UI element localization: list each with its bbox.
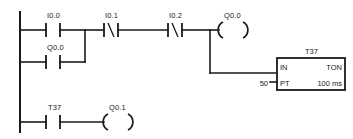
label-contact-i01: I0.1: [105, 11, 118, 20]
label-coil-q00: Q0.0: [224, 11, 241, 20]
contact-i00[interactable]: [46, 23, 60, 37]
coil-q01[interactable]: [103, 114, 133, 130]
label-timer-in: IN: [280, 63, 288, 72]
label-coil-q01: Q0.1: [109, 103, 126, 112]
label-timer-preset-value: 50: [260, 79, 268, 88]
label-timer-name: T37: [305, 47, 318, 56]
contact-t37[interactable]: [46, 115, 60, 129]
label-timer-timebase: 100 ms: [317, 79, 342, 88]
label-contact-t37: T37: [48, 103, 61, 112]
contact-q00-sealin[interactable]: [46, 55, 60, 69]
contact-i01[interactable]: [104, 23, 118, 37]
label-contact-i00: I0.0: [47, 11, 60, 20]
coil-q00[interactable]: [218, 22, 248, 38]
contact-i02[interactable]: [168, 23, 182, 37]
ladder-canvas: I0.0 I0.1 I0.2 Q0.0 Q0.0 T37 Q0.1 T37 IN…: [0, 0, 353, 139]
label-timer-pt: PT: [280, 79, 290, 88]
label-contact-q00-sealin: Q0.0: [47, 43, 64, 52]
label-contact-i02: I0.2: [169, 11, 182, 20]
ladder-diagram: I0.0 I0.1 I0.2 Q0.0 Q0.0 T37 Q0.1 T37 IN…: [0, 0, 353, 139]
label-timer-type: TON: [326, 63, 342, 72]
